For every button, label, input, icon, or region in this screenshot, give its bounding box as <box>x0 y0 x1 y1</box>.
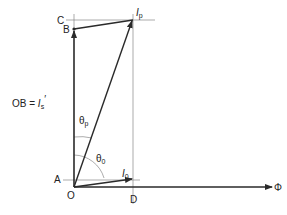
label-i0: I0 <box>122 168 129 180</box>
theta-p-arc <box>74 137 92 138</box>
label-ip: Ip <box>136 7 143 20</box>
label-b: B <box>63 24 70 35</box>
label-flux: Φ <box>274 182 282 193</box>
ob-equation: OB = Is′ <box>12 94 46 110</box>
label-theta-p-sub: p <box>85 120 89 128</box>
label-d: D <box>130 194 137 205</box>
label-ip-sub: p <box>139 12 143 20</box>
label-theta-p: θp <box>79 115 89 128</box>
label-a: A <box>54 174 61 185</box>
label-theta-0-sub: 0 <box>102 158 106 165</box>
label-i0-sub: 0 <box>125 173 129 180</box>
ob-equation-prime: ′ <box>44 94 46 105</box>
point-b-dot <box>72 27 75 30</box>
phasor-diagram: C B A O D Ip I0 θp θ0 Φ OB = Is′ <box>0 0 287 215</box>
label-o: O <box>67 190 75 201</box>
bp-connector <box>74 20 133 29</box>
ob-equation-prefix: OB = <box>12 98 38 109</box>
label-theta-0: θ0 <box>96 153 106 165</box>
